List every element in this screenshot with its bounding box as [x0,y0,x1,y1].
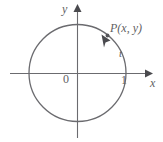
origin-label: 0 [63,73,69,85]
arc-length-label-t: t [119,48,122,59]
unit-circle-figure: y x 0 1 t P(x, y) [0,0,163,142]
y-axis-label: y [62,3,67,15]
x-tick-label-one: 1 [121,74,127,86]
y-axis-arrow-icon [74,4,82,12]
point-p-marker [106,34,110,38]
x-axis-label: x [150,77,155,89]
point-label-p: P(x, y) [110,22,142,34]
